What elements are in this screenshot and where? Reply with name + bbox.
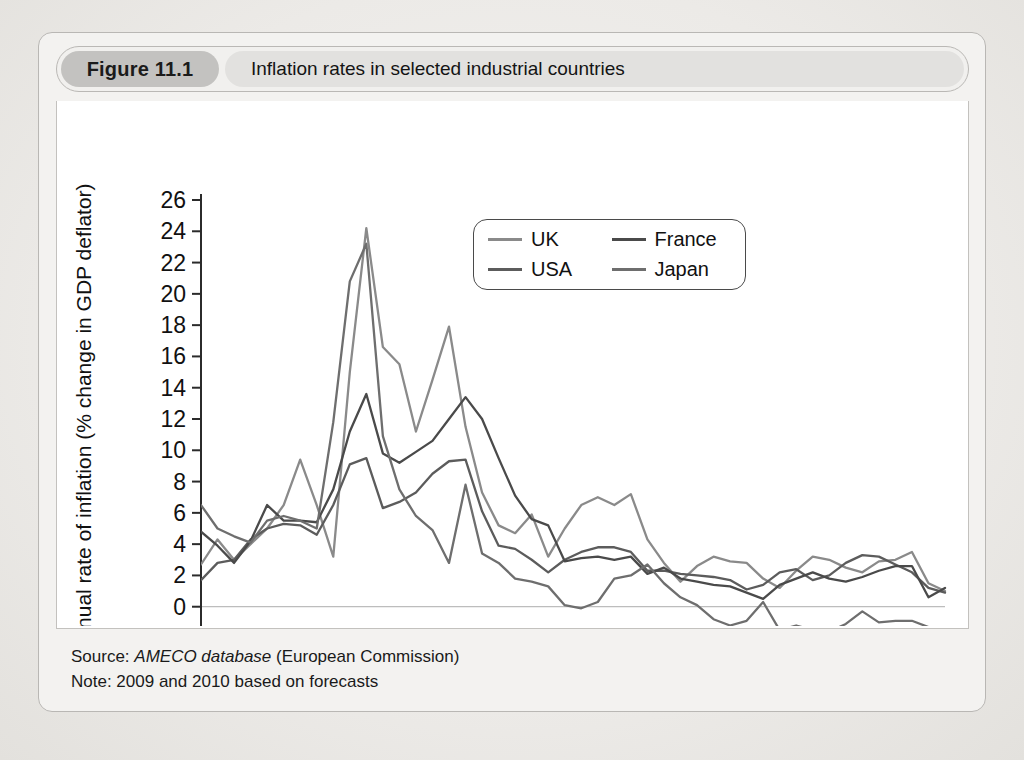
- chart-plot-panel: −202468101214161820222426196519701975198…: [56, 101, 969, 629]
- legend-label-japan: Japan: [655, 258, 710, 281]
- legend-swatch-france: [612, 238, 646, 241]
- legend-swatch-usa: [488, 268, 522, 271]
- y-axis-tick-label: 24: [160, 218, 186, 244]
- legend-label-usa: USA: [531, 258, 572, 281]
- figure-footnotes: Source: AMECO database (European Commiss…: [71, 645, 951, 694]
- legend-item-japan: Japan: [612, 258, 736, 281]
- legend-swatch-uk: [488, 238, 522, 241]
- figure-card: Figure 11.1 Inflation rates in selected …: [38, 32, 986, 712]
- source-prefix: Source:: [71, 647, 134, 666]
- source-suffix: (European Commission): [271, 647, 459, 666]
- y-axis-tick-label: 8: [173, 469, 186, 495]
- legend-label-uk: UK: [531, 228, 559, 251]
- y-axis-tick-label: 26: [160, 187, 186, 213]
- legend-swatch-japan: [612, 268, 646, 271]
- y-axis-tick-label: 0: [173, 594, 186, 620]
- legend-label-france: France: [655, 228, 717, 251]
- legend-item-uk: UK: [488, 228, 612, 251]
- source-database-name: AMECO database: [134, 647, 271, 666]
- legend-item-france: France: [612, 228, 736, 251]
- y-axis-tick-label: 20: [160, 281, 186, 307]
- y-axis-tick-label: 14: [160, 375, 186, 401]
- y-axis-tick-label: 22: [160, 250, 186, 276]
- y-axis-tick-label: 4: [173, 531, 186, 557]
- y-axis-title: Annual rate of inflation (% change in GD…: [72, 183, 95, 626]
- y-axis-tick-label: 16: [160, 343, 186, 369]
- series-line-japan: [201, 244, 945, 626]
- line-chart: −202468101214161820222426196519701975198…: [57, 101, 967, 626]
- y-axis-tick-label: −2: [160, 625, 186, 626]
- figure-note-line: Note: 2009 and 2010 based on forecasts: [71, 670, 951, 695]
- figure-number-badge: Figure 11.1: [61, 51, 219, 87]
- y-axis-tick-label: 12: [160, 406, 186, 432]
- figure-title: Inflation rates in selected industrial c…: [225, 51, 964, 87]
- y-axis-tick-label: 18: [160, 312, 186, 338]
- figure-source-line: Source: AMECO database (European Commiss…: [71, 645, 951, 670]
- y-axis-tick-label: 10: [160, 437, 186, 463]
- y-axis-tick-label: 6: [173, 500, 186, 526]
- figure-header: Figure 11.1 Inflation rates in selected …: [56, 46, 969, 92]
- chart-legend: UK France USA Japan: [473, 219, 746, 290]
- legend-item-usa: USA: [488, 258, 612, 281]
- y-axis-tick-label: 2: [173, 562, 186, 588]
